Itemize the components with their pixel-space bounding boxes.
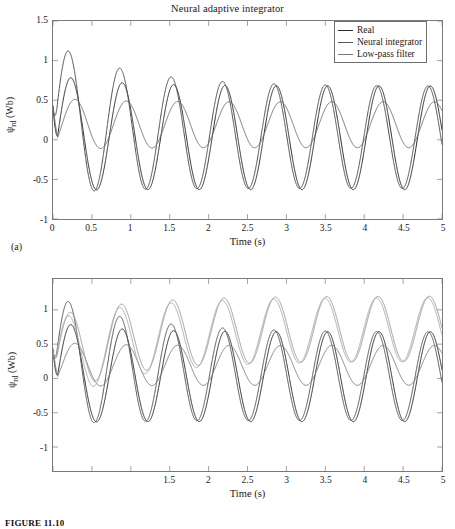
panel-a: Neural adaptive integrator ψrd (Wb) Time…	[0, 0, 455, 258]
panel-a-legend: RealNeural integratorLow-pass filter	[334, 21, 427, 63]
y-tick-label: 1.5	[18, 15, 48, 25]
legend-label: Low-pass filter	[357, 48, 415, 60]
y-tick-label: 1	[18, 304, 48, 314]
x-tick-label: 2.5	[242, 223, 254, 233]
x-tick-label: 1.5	[163, 475, 175, 485]
x-tick-label: 3.5	[320, 475, 332, 485]
panel-a-y-axis-label: ψrd (Wb)	[4, 82, 18, 148]
y-tick-label: 0.5	[18, 95, 48, 105]
legend-label: Neural integrator	[357, 36, 422, 48]
x-tick-label: 3.5	[320, 223, 332, 233]
x-tick-label: 2.5	[242, 475, 254, 485]
figure-11-10: Neural adaptive integrator ψrd (Wb) Time…	[0, 0, 455, 529]
y-tick-label: -1	[18, 215, 48, 225]
x-tick-label: 5	[441, 475, 446, 485]
y-tick-label: -0.5	[18, 175, 48, 185]
x-tick-label: 3	[284, 475, 289, 485]
legend-item: Low-pass filter	[338, 48, 422, 60]
x-tick-label: 4.5	[398, 223, 410, 233]
panel-a-subfigure-label: (a)	[11, 241, 22, 252]
panel-b-curves	[53, 279, 442, 471]
legend-item: Real	[338, 24, 422, 36]
y-tick-label: 1	[18, 55, 48, 65]
figure-caption: FIGURE 11.10	[5, 518, 64, 529]
panel-b-plot-area	[52, 278, 443, 472]
x-tick-label: 0.5	[85, 223, 97, 233]
x-tick-label: 0	[50, 223, 55, 233]
y-tick-label: -0.5	[18, 408, 48, 418]
panel-b-x-axis-label: Time (s)	[52, 488, 443, 499]
y-tick-label: 0.5	[18, 339, 48, 349]
panel-b-y-unit: (Wb)	[6, 352, 17, 376]
x-tick-label: 2	[206, 223, 211, 233]
x-tick-label: 1	[128, 223, 133, 233]
panel-a-title: Neural adaptive integrator	[0, 3, 455, 14]
y-tick-label: -1	[18, 443, 48, 453]
legend-line-swatch	[338, 30, 353, 31]
legend-line-swatch	[338, 42, 353, 43]
x-tick-label: 3	[284, 223, 289, 233]
x-tick-label: 4	[362, 475, 367, 485]
x-tick-label: 4	[362, 223, 367, 233]
x-tick-label: 5	[441, 223, 446, 233]
x-tick-label: 1.5	[163, 223, 175, 233]
y-tick-label: 0	[18, 373, 48, 383]
legend-label: Real	[357, 24, 374, 36]
panel-b-y-symbol: ψ	[6, 382, 17, 388]
panel-a-y-unit: (Wb)	[4, 97, 15, 121]
y-tick-label: 0	[18, 135, 48, 145]
panel-a-y-symbol: ψ	[4, 127, 15, 133]
x-tick-label: 4.5	[398, 475, 410, 485]
panel-b: ψrd (Wb) Time (s) 1.522.533.544.55-1-0.5…	[0, 258, 455, 510]
legend-line-swatch	[338, 54, 353, 55]
panel-a-x-axis-label: Time (s)	[52, 236, 443, 247]
x-tick-label: 2	[206, 475, 211, 485]
legend-item: Neural integrator	[338, 36, 422, 48]
panel-a-y-subscript: rd	[9, 121, 18, 127]
